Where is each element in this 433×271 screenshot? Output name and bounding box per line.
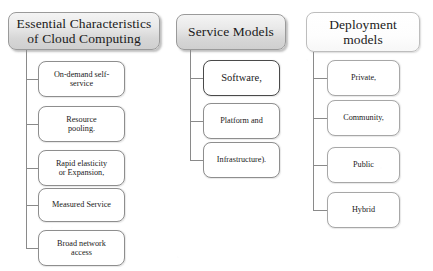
- header-essential-characteristics-label: Essential Characteristics of Cloud Compu…: [14, 16, 155, 46]
- connector-trunk-deployment: [313, 52, 314, 210]
- connector-stub-service-2: [190, 121, 203, 122]
- node-software[interactable]: Software,: [203, 60, 280, 96]
- connector-stub-deployment-2: [313, 118, 327, 119]
- connector-stub-essential-5: [26, 248, 38, 249]
- node-community-label: Community,: [340, 113, 387, 122]
- connector-stub-essential-3: [26, 168, 38, 169]
- connector-stub-deployment-1: [313, 78, 327, 79]
- header-deployment-models-label: Deployment models: [326, 17, 400, 47]
- connector-stub-essential-2: [26, 124, 38, 125]
- node-community[interactable]: Community,: [327, 100, 400, 136]
- node-broad-network-access-label: Broad network access: [54, 239, 109, 257]
- header-service-models-label: Service Models: [185, 24, 277, 39]
- header-essential-characteristics[interactable]: Essential Characteristics of Cloud Compu…: [8, 12, 160, 50]
- node-platform-label: Platform and: [217, 116, 266, 125]
- node-broad-network-access[interactable]: Broad network access: [38, 230, 125, 266]
- connector-stub-deployment-4: [313, 210, 327, 211]
- node-private-label: Private,: [348, 73, 379, 82]
- header-deployment-models[interactable]: Deployment models: [306, 12, 420, 52]
- header-service-models[interactable]: Service Models: [176, 14, 286, 50]
- node-private[interactable]: Private,: [327, 60, 400, 96]
- node-hybrid-label: Hybrid: [349, 205, 378, 214]
- node-rapid-elasticity-label: Rapid elasticity or Expansion,: [53, 159, 110, 177]
- node-resource-pooling[interactable]: Resource pooling.: [38, 106, 125, 142]
- diagram-canvas: Essential Characteristics of Cloud Compu…: [0, 0, 433, 271]
- node-hybrid[interactable]: Hybrid: [327, 192, 400, 228]
- node-measured-service-label: Measured Service: [49, 200, 114, 209]
- node-infrastructure-label: Infrastructure).: [214, 155, 269, 164]
- connector-stub-deployment-3: [313, 165, 327, 166]
- connector-trunk-service: [190, 50, 191, 160]
- node-rapid-elasticity[interactable]: Rapid elasticity or Expansion,: [38, 150, 125, 186]
- node-resource-pooling-label: Resource pooling.: [63, 115, 99, 133]
- connector-stub-service-1: [190, 78, 203, 79]
- node-public[interactable]: Public: [327, 147, 400, 183]
- node-platform[interactable]: Platform and: [203, 103, 280, 139]
- node-measured-service[interactable]: Measured Service: [38, 188, 125, 222]
- node-infrastructure[interactable]: Infrastructure).: [203, 142, 280, 178]
- node-on-demand-self-service[interactable]: On-demand self- service: [38, 61, 125, 97]
- connector-stub-essential-1: [26, 79, 38, 80]
- node-on-demand-self-service-label: On-demand self- service: [51, 70, 112, 88]
- connector-stub-essential-4: [26, 205, 38, 206]
- node-public-label: Public: [350, 160, 377, 169]
- node-software-label: Software,: [218, 72, 265, 84]
- connector-stub-service-3: [190, 160, 203, 161]
